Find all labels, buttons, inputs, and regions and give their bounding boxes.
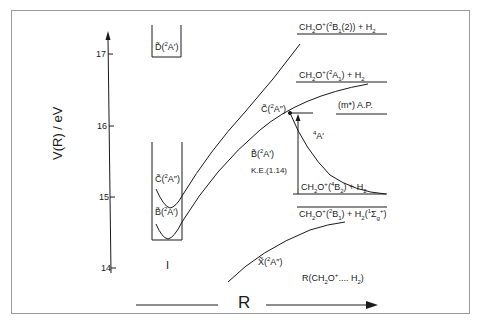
mstar-ap-label: (m*) A.P. [338,101,373,110]
kinetic-energy-label: K.E.(1.14) [251,167,287,175]
ke-arrow-head-icon [296,114,301,121]
y-axis [108,38,111,273]
tick-label-14: 14 [101,264,111,273]
tick-label-17: 17 [96,50,106,59]
y-axis-label: V(R) / eV [50,107,65,160]
r-axis-arrow-icon [366,301,378,309]
b-curve-label: B̃(2A′) [251,150,274,159]
well-marker-label: I [166,260,169,271]
tick-label-16: 16 [97,122,107,131]
asymptote-label-4B2: CH2O+(4B2) + H2 [301,183,367,192]
x-curve-label: X̃(2A″) [258,258,283,267]
c-curve-label: C̃(2A″) [261,105,286,114]
y-axis-arrow-icon [106,31,111,40]
b-well-label: B̃(2A′) [155,208,178,217]
asymptote-label-2B1-2: CH2O+(2B1(2)) + H2 [299,23,376,32]
d-state-label: D̃(2A′) [155,43,179,52]
potential-energy-diagram [0,0,480,332]
asymptote-label-2B1: CH2O+(2B1) + H2(1Σg+) [299,210,386,219]
quartet-curve-label: 4A′ [313,132,324,141]
asymptote-label-2A1: CH2O+(2A1) + H2 [299,71,365,80]
tick-label-15: 15 [99,193,109,202]
reaction-coordinate-label: R(CH2O+.... H2) [302,274,364,283]
r-axis-label: R [238,293,250,313]
c-well-label: C̃(2A″) [155,175,180,184]
